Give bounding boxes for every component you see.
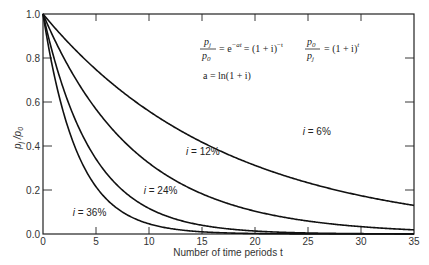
- formula-1: pj p0 = e−at= (1 + i)−t: [200, 36, 283, 63]
- y-tick-label: 0.8: [26, 53, 40, 64]
- y-axis-title: pj /p0: [12, 127, 25, 150]
- x-tick-label: 15: [196, 236, 208, 247]
- x-tick-label: 25: [302, 236, 314, 247]
- x-tick-label: 0: [40, 236, 46, 247]
- svg-text:pj: pj: [306, 50, 314, 63]
- y-tick-label: 0.6: [26, 97, 40, 108]
- x-axis-title: Number of time periods t: [173, 247, 283, 258]
- x-tick-label: 35: [408, 236, 420, 247]
- curve-label-6pct: i = 6%: [303, 126, 331, 137]
- x-tick-label: 20: [249, 236, 261, 247]
- curve-label-24pct: i = 24%: [144, 185, 178, 196]
- svg-text:= (1 + i)t: = (1 + i)t: [324, 41, 360, 55]
- x-tick-label: 10: [143, 236, 155, 247]
- y-tick-label: 0.0: [26, 229, 40, 240]
- curve-label-12pct: i = 12%: [186, 146, 220, 157]
- x-tick-label: 5: [93, 236, 99, 247]
- svg-text:= e−at= (1 + i)−t: = e−at= (1 + i)−t: [219, 41, 283, 55]
- y-tick-label: 0.4: [26, 141, 40, 152]
- svg-text:pj: pj: [203, 36, 211, 49]
- y-tick-label: 0.2: [26, 185, 40, 196]
- formula-3: a = ln(1 + i): [203, 70, 251, 82]
- x-tick-label: 30: [355, 236, 367, 247]
- y-title-slash: /p: [12, 130, 23, 142]
- svg-text:p0: p0: [306, 36, 316, 49]
- y-title-sub-0: 0: [17, 127, 24, 131]
- y-tick-label: 1.0: [26, 9, 40, 20]
- formula-2: p0 pj = (1 + i)t: [305, 36, 360, 63]
- svg-text:p0: p0: [201, 50, 211, 63]
- curve-label-36pct: i = 36%: [73, 207, 107, 218]
- svg-text:pj /p0: pj /p0: [12, 127, 25, 150]
- chart: 051015202530350.00.20.40.60.81.0 i = 6%i…: [0, 0, 429, 265]
